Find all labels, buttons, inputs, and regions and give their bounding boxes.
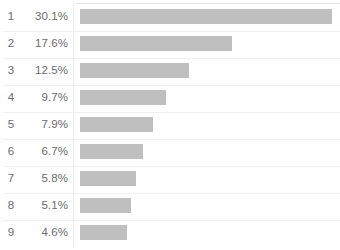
row-separator (3, 193, 340, 194)
row-separator (3, 85, 340, 86)
rank-label: 3 (4, 63, 18, 77)
bar-track (80, 225, 338, 240)
bar-track (80, 90, 338, 105)
chart-row[interactable]: 75.8% (0, 166, 340, 193)
rank-label: 2 (4, 36, 18, 50)
chart-row[interactable]: 57.9% (0, 112, 340, 139)
percentage-label: 6.7% (20, 144, 68, 158)
row-separator (3, 139, 340, 140)
percentage-label: 5.1% (20, 198, 68, 212)
bar-track (80, 63, 338, 78)
percentage-label: 9.7% (20, 90, 68, 104)
row-separator (3, 220, 340, 221)
chart-row[interactable]: 85.1% (0, 193, 340, 220)
rank-label: 6 (4, 144, 18, 158)
bar-track (80, 36, 338, 51)
bar-track (80, 117, 338, 132)
percentage-label: 4.6% (20, 225, 68, 239)
ranked-bar-chart: 130.1%217.6%312.5%49.7%57.9%66.7%75.8%85… (0, 0, 340, 250)
bar-fill[interactable] (80, 144, 143, 159)
bar-fill[interactable] (80, 225, 127, 240)
bar-track (80, 171, 338, 186)
rank-label: 1 (4, 9, 18, 23)
percentage-label: 12.5% (20, 63, 68, 77)
percentage-label: 5.8% (20, 171, 68, 185)
bar-fill[interactable] (80, 171, 136, 186)
percentage-label: 30.1% (20, 9, 68, 23)
row-separator (3, 58, 340, 59)
chart-row[interactable]: 217.6% (0, 31, 340, 58)
percentage-label: 17.6% (20, 36, 68, 50)
rank-label: 8 (4, 198, 18, 212)
chart-row[interactable]: 312.5% (0, 58, 340, 85)
bar-fill[interactable] (80, 117, 153, 132)
bar-fill[interactable] (80, 198, 131, 213)
bar-track (80, 198, 338, 213)
chart-row[interactable]: 66.7% (0, 139, 340, 166)
bar-fill[interactable] (80, 9, 332, 24)
rank-label: 4 (4, 90, 18, 104)
chart-row[interactable]: 130.1% (0, 4, 340, 31)
bar-fill[interactable] (80, 63, 189, 78)
chart-row[interactable]: 94.6% (0, 220, 340, 247)
row-separator (3, 166, 340, 167)
chart-row[interactable]: 49.7% (0, 85, 340, 112)
row-separator (3, 31, 340, 32)
rank-label: 9 (4, 225, 18, 239)
chart-row-list: 130.1%217.6%312.5%49.7%57.9%66.7%75.8%85… (0, 4, 340, 247)
rank-label: 5 (4, 117, 18, 131)
rank-label: 7 (4, 171, 18, 185)
percentage-label: 7.9% (20, 117, 68, 131)
bar-fill[interactable] (80, 90, 166, 105)
bar-fill[interactable] (80, 36, 232, 51)
bar-track (80, 9, 338, 24)
row-separator (3, 4, 340, 5)
row-separator (3, 112, 340, 113)
bar-track (80, 144, 338, 159)
